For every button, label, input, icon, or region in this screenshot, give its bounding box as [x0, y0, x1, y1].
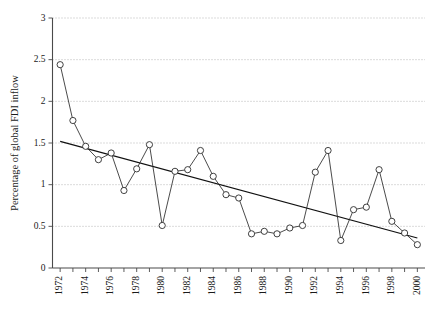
x-tick-label: 1986 [233, 276, 243, 295]
data-point-1997 [376, 167, 382, 173]
y-tick-label: 1 [41, 179, 46, 189]
data-point-1998 [389, 218, 395, 224]
x-tick-label: 1988 [258, 276, 268, 295]
data-point-1979 [146, 142, 152, 148]
y-tick-label: 3 [41, 13, 46, 23]
y-tick-label: 0.5 [34, 221, 46, 231]
x-tick-label: 1998 [386, 276, 396, 295]
x-tick-label: 1996 [361, 276, 371, 295]
data-point-1984 [210, 173, 216, 179]
data-point-1994 [338, 237, 344, 243]
x-tick-label: 1980 [156, 276, 166, 295]
data-point-1982 [185, 167, 191, 173]
y-tick-label: 1.5 [34, 138, 46, 148]
data-point-1974 [83, 143, 89, 149]
x-tick-label: 1974 [80, 276, 90, 295]
data-point-1986 [236, 195, 242, 201]
y-tick-group [49, 18, 53, 268]
data-point-1995 [350, 207, 356, 213]
x-tick-label: 1976 [105, 276, 115, 295]
x-tick-label: 1992 [309, 276, 319, 295]
data-point-1991 [299, 222, 305, 228]
data-point-1972 [57, 62, 63, 68]
x-tick-label: 1990 [284, 276, 294, 295]
chart-figure: 00.511.522.53 19721974197619781980198219… [0, 0, 444, 314]
y-axis-title: Percentage of global FDI inflow [9, 75, 20, 211]
data-point-markers [57, 62, 420, 248]
data-point-1992 [312, 169, 318, 175]
trendline [60, 141, 417, 238]
x-tick-label: 1982 [182, 276, 192, 295]
data-point-1980 [159, 222, 165, 228]
data-point-1978 [134, 166, 140, 172]
data-point-1976 [108, 150, 114, 156]
x-tick-label: 1984 [207, 276, 217, 295]
y-tick-label: 2 [41, 96, 46, 106]
y-tick-label: 0 [41, 263, 46, 273]
data-point-2000 [414, 242, 420, 248]
data-point-1981 [172, 168, 178, 174]
data-point-1999 [401, 230, 407, 236]
x-tick-label: 1972 [54, 276, 64, 295]
data-point-1993 [325, 147, 331, 153]
fdi-inflow-line-chart: 00.511.522.53 19721974197619781980198219… [0, 0, 444, 314]
x-tick-label: 2000 [412, 276, 422, 295]
data-point-1973 [70, 117, 76, 123]
x-tick-group [60, 268, 417, 272]
y-tick-label-group: 00.511.522.53 [34, 13, 46, 273]
data-point-1985 [223, 192, 229, 198]
data-point-1975 [95, 157, 101, 163]
x-tick-label: 1978 [131, 276, 141, 295]
x-tick-label: 1994 [335, 276, 345, 295]
data-point-1989 [274, 231, 280, 237]
data-point-1977 [121, 187, 127, 193]
data-point-1988 [261, 228, 267, 234]
x-tick-label-group: 1972197419761978198019821984198619881990… [54, 276, 421, 295]
y-tick-label: 2.5 [34, 54, 46, 64]
data-point-1996 [363, 204, 369, 210]
data-point-1987 [248, 231, 254, 237]
data-point-1983 [197, 147, 203, 153]
data-point-1990 [287, 225, 293, 231]
